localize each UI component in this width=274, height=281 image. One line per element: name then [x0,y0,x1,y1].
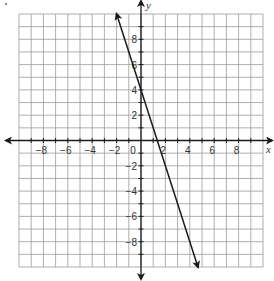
x-tick-label: −8 [36,145,48,156]
y-tick-label: −8 [126,237,138,248]
y-tick-label: −6 [126,211,138,222]
stray-mark [5,3,7,5]
x-tick-label: −2 [109,145,121,156]
x-tick-label: 6 [209,145,215,156]
axes [6,1,272,279]
x-tick-label: −6 [60,145,72,156]
y-tick-label: 4 [131,85,137,96]
x-tick-label: 8 [234,145,240,156]
y-tick-label: 2 [131,110,137,121]
x-tick-label: 4 [185,145,191,156]
x-tick-label: 0 [130,145,136,156]
x-axis-label: x [265,143,271,155]
y-tick-label: 8 [131,34,137,45]
x-tick-label: −4 [84,145,96,156]
coordinate-graph: −8−6−4−202468−8−6−4−22468 x y [0,0,274,281]
y-tick-label: −2 [126,161,138,172]
y-tick-label: −4 [126,186,138,197]
y-axis-label: y [145,0,151,11]
